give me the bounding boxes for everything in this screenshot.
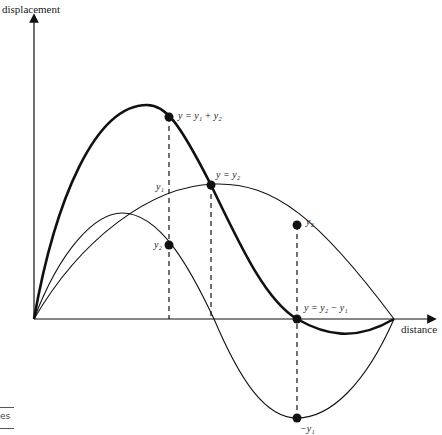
label-sum: y = y₁ + y₂ (178, 111, 222, 121)
dot-diff (293, 315, 302, 324)
wave-diagram (0, 0, 442, 435)
edge-rule-top (0, 407, 14, 408)
resultant-curve (34, 105, 394, 334)
edge-rule-bottom (0, 428, 14, 429)
y-axis-label: displacement (2, 4, 60, 15)
dot-sum (165, 113, 174, 122)
label-y2-left: y₂ (154, 240, 162, 250)
label-y2-right: y₂ (306, 217, 314, 227)
label-equal: y = y₂ (216, 170, 240, 180)
label-neg-y1: −y₁ (300, 424, 315, 434)
label-diff: y = y₂ − y₁ (304, 303, 348, 313)
dot-y2-left (165, 241, 174, 250)
dot-y2-right (293, 221, 302, 230)
dot-neg-y1 (293, 414, 302, 423)
short-wave-curve (34, 213, 394, 418)
dot-equal (207, 181, 216, 190)
label-y1-left: y₁ (156, 182, 164, 192)
long-wave-curve (34, 184, 394, 319)
edge-text-fragment: es (0, 411, 10, 421)
x-axis-label: distance (401, 324, 437, 335)
